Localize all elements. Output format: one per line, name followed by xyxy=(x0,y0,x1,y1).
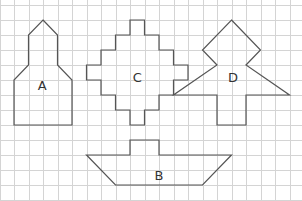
grid-lines xyxy=(0,0,302,201)
grid-diagram: ACDB xyxy=(0,0,302,201)
shapes-layer: ACDB xyxy=(14,20,290,185)
shape-label-c: C xyxy=(133,70,142,85)
shape-label-a: A xyxy=(38,78,47,93)
shape-label-b: B xyxy=(155,168,164,183)
diagram-svg: ACDB xyxy=(0,0,302,201)
shape-label-d: D xyxy=(228,70,238,85)
